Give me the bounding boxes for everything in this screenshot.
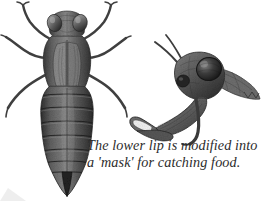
dragonfly-nymph-illustration <box>0 0 261 202</box>
illustration-figure: The lower lip is modified into a 'mask' … <box>0 0 261 202</box>
profile-antennae <box>155 35 181 62</box>
caption-line-1: The lower lip is modified into <box>87 137 259 154</box>
caption-line-2: a 'mask' for catching food. <box>87 154 259 171</box>
profile-lower-eye-highlight <box>179 77 183 81</box>
eye-highlight-right <box>75 17 80 23</box>
wing-pad-left <box>53 42 66 88</box>
caption-text: The lower lip is modified into a 'mask' … <box>87 137 259 170</box>
eye-highlight-left <box>50 17 55 23</box>
scan-edge-shadow <box>0 188 26 201</box>
leg-middle-right <box>86 36 131 58</box>
labial-mask <box>130 98 207 141</box>
specimen-head-profile-mask <box>130 35 260 145</box>
caudal-appendages <box>62 172 72 197</box>
nymph-thorax <box>43 36 90 88</box>
leg-middle-left <box>1 35 48 58</box>
leg-front-left <box>17 2 52 40</box>
